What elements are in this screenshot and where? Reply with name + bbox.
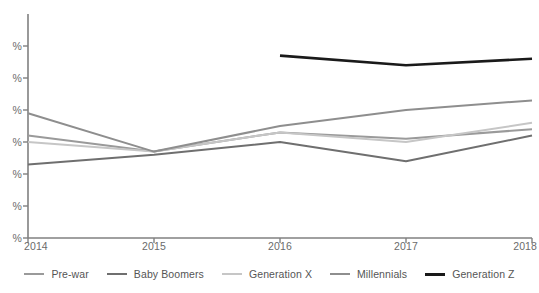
y-axis-tick-label: % bbox=[0, 104, 22, 116]
legend-item-baby-boomers[interactable]: Baby Boomers bbox=[107, 268, 204, 280]
y-axis-tick-label: % bbox=[0, 72, 22, 84]
legend-item-label: Baby Boomers bbox=[134, 268, 204, 280]
y-axis-tick-label: % bbox=[0, 136, 22, 148]
x-axis-tick-label: 2015 bbox=[142, 240, 166, 252]
x-axis-tick-label: 2016 bbox=[268, 240, 292, 252]
legend-item-generation-z[interactable]: Generation Z bbox=[425, 268, 514, 280]
chart-legend: Pre-warBaby BoomersGeneration XMillennia… bbox=[0, 268, 539, 280]
legend-item-generation-x[interactable]: Generation X bbox=[222, 268, 312, 280]
legend-swatch-icon bbox=[425, 273, 445, 276]
legend-swatch-icon bbox=[107, 273, 127, 275]
line-chart: %%%%%%% 20142015201620172018 Pre-warBaby… bbox=[0, 0, 539, 293]
legend-item-label: Generation Z bbox=[452, 268, 514, 280]
x-axis-tick-label: 2017 bbox=[394, 240, 418, 252]
y-axis-tick-label: % bbox=[0, 40, 22, 52]
legend-item-label: Millennials bbox=[357, 268, 407, 280]
x-axis-tick-label: 2014 bbox=[24, 240, 48, 252]
legend-swatch-icon bbox=[330, 273, 350, 275]
legend-swatch-icon bbox=[24, 273, 44, 275]
series-line-millennials bbox=[28, 100, 532, 151]
legend-item-label: Generation X bbox=[249, 268, 312, 280]
series-line-baby-boomers bbox=[28, 136, 532, 165]
legend-item-pre-war[interactable]: Pre-war bbox=[24, 268, 88, 280]
legend-swatch-icon bbox=[222, 273, 242, 275]
y-axis-tick-label: % bbox=[0, 168, 22, 180]
data-series-group bbox=[28, 56, 532, 165]
axis-group bbox=[23, 14, 532, 243]
legend-item-millennials[interactable]: Millennials bbox=[330, 268, 407, 280]
x-axis-tick-label: 2018 bbox=[513, 240, 537, 252]
series-line-generation-z bbox=[280, 56, 532, 66]
x-axis-labels: 20142015201620172018 bbox=[0, 240, 539, 256]
legend-item-label: Pre-war bbox=[51, 268, 88, 280]
y-axis-tick-label: % bbox=[0, 200, 22, 212]
